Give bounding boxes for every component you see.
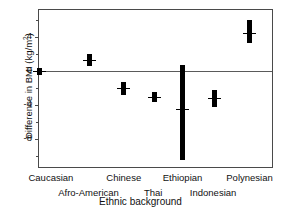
mean-marker — [83, 60, 96, 61]
data-point-chinese — [123, 10, 124, 169]
mean-marker — [176, 109, 189, 110]
zero-reference-line — [39, 71, 272, 72]
data-point-thai — [154, 10, 155, 169]
mean-marker — [117, 88, 130, 89]
error-bar — [247, 20, 252, 43]
x-tick-label-chinese: Chinese — [106, 172, 141, 183]
mean-marker — [243, 33, 256, 34]
data-point-indonesian — [214, 10, 215, 169]
data-point-polynesian — [249, 10, 250, 169]
mean-marker — [33, 71, 46, 72]
x-tick-label-caucasian: Caucasian — [28, 172, 73, 183]
bmi-difference-chart: Difference in BMI (kg/m2) 40-4-8 Caucasi… — [0, 0, 281, 215]
x-tick-label-polynesian: Polynesian — [226, 172, 272, 183]
mean-marker — [148, 97, 161, 98]
data-point-afro-american — [89, 10, 90, 169]
x-axis-title: Ethnic background — [0, 196, 281, 207]
plot-area — [38, 9, 273, 168]
data-point-caucasian — [39, 10, 40, 169]
y-tick-label: -8 — [14, 133, 32, 143]
mean-marker — [208, 98, 221, 99]
y-tick-label: -4 — [14, 99, 32, 109]
data-point-ethiopian — [182, 10, 183, 169]
y-tick-label: 4 — [14, 31, 32, 41]
y-tick-label: 0 — [14, 65, 32, 75]
x-tick-label-ethiopian: Ethiopian — [163, 172, 203, 183]
error-bar — [180, 65, 185, 160]
